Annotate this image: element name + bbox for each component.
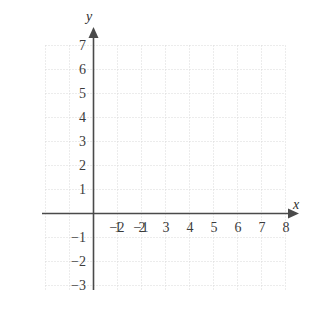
x-axis	[42, 209, 299, 219]
x-tick-label-8: 8	[272, 221, 300, 235]
y-tick-label-6: 6	[60, 63, 86, 77]
y-tick-label--2: −2	[57, 255, 86, 269]
y-tick-label-3: 3	[60, 135, 86, 149]
y-axis-arrowhead-icon	[89, 27, 99, 38]
y-axis	[89, 27, 99, 290]
y-tick-label--1: −1	[57, 231, 86, 245]
y-tick-label-7: 7	[60, 39, 86, 53]
y-tick-label-2: 2	[60, 159, 86, 173]
y-tick-label-1: 1	[60, 183, 86, 197]
coordinate-plane-figure: x y −2 −1 1 2 3 4 5 6 7 8 7 6 5 4 3 2 1 …	[0, 0, 323, 324]
y-tick-label-4: 4	[60, 111, 86, 125]
y-tick-label--3: −3	[57, 279, 86, 293]
x-axis-label: x	[293, 198, 299, 212]
y-tick-label-5: 5	[60, 87, 86, 101]
y-axis-label: y	[86, 10, 92, 24]
coordinate-grid-canvas	[0, 0, 323, 324]
